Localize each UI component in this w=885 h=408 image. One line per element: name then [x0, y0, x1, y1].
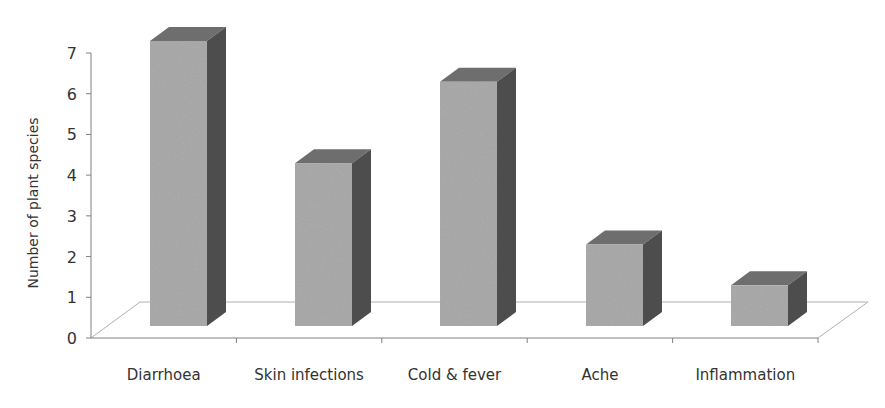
- bar-inflammation: [731, 271, 807, 326]
- y-tick-label: 7: [67, 44, 77, 63]
- y-tick-label: 0: [67, 329, 77, 348]
- bars: [150, 27, 807, 326]
- bar-ache: [586, 231, 662, 326]
- y-tick-label: 2: [67, 248, 77, 267]
- y-tick-label: 5: [67, 125, 77, 144]
- y-tick-label: 3: [67, 207, 77, 226]
- bar-chart: 01234567 DiarrhoeaSkin infectionsCold & …: [0, 0, 885, 408]
- y-tick-label: 4: [67, 166, 77, 185]
- x-category-label: Skin infections: [254, 366, 364, 384]
- x-category-label: Diarrhoea: [127, 366, 201, 384]
- y-tick-label: 6: [67, 85, 77, 104]
- x-category-label: Cold & fever: [408, 366, 502, 384]
- y-axis: 01234567: [67, 44, 91, 348]
- bar-skin-infections: [295, 149, 371, 326]
- x-axis: DiarrhoeaSkin infectionsCold & feverAche…: [91, 338, 818, 384]
- x-category-label: Inflammation: [695, 366, 795, 384]
- bar-diarrhoea: [150, 27, 226, 326]
- x-category-label: Ache: [581, 366, 618, 384]
- y-axis-title: Number of plant species: [25, 117, 41, 288]
- y-tick-label: 1: [67, 288, 77, 307]
- bar-cold-fever: [440, 68, 516, 326]
